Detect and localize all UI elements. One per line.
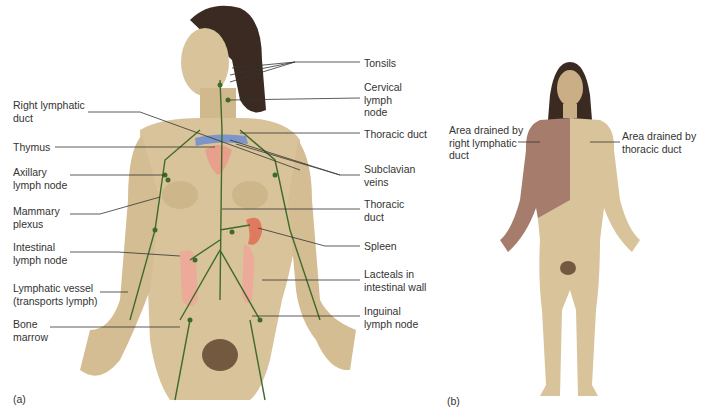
label-subclavian-veins: Subclavian veins bbox=[364, 163, 415, 188]
label-inguinal-lymph-node: Inguinal lymph node bbox=[364, 305, 418, 330]
figure-b-body bbox=[500, 62, 640, 396]
label-tonsils: Tonsils bbox=[364, 57, 396, 70]
label-lacteals: Lacteals in intestinal wall bbox=[364, 268, 426, 293]
label-spleen: Spleen bbox=[364, 240, 397, 253]
label-thoracic-duct-upper: Thoracic duct bbox=[364, 128, 427, 141]
caption-b: (b) bbox=[447, 395, 460, 407]
lymphatic-system-illustration bbox=[0, 0, 707, 412]
label-lymphatic-vessel: Lymphatic vessel (transports lymph) bbox=[13, 282, 98, 307]
label-right-lymphatic-area: Area drained by right lymphatic duct bbox=[449, 124, 523, 162]
label-thymus: Thymus bbox=[13, 141, 50, 154]
label-mammary-plexus: Mammary plexus bbox=[13, 205, 60, 230]
label-thoracic-duct-area: Area drained by thoracic duct bbox=[622, 130, 696, 155]
label-bone-marrow: Bone marrow bbox=[13, 318, 48, 343]
label-right-lymphatic-duct: Right lymphatic duct bbox=[13, 99, 85, 124]
label-axillary-lymph-node: Axillary lymph node bbox=[13, 166, 67, 191]
figure-a-body bbox=[80, 6, 356, 400]
label-intestinal-lymph-node: Intestinal lymph node bbox=[13, 241, 67, 266]
label-cervical-lymph-node: Cervical lymph node bbox=[364, 81, 402, 119]
caption-a: (a) bbox=[13, 393, 26, 405]
label-thoracic-duct-lower: Thoracic duct bbox=[364, 198, 404, 223]
